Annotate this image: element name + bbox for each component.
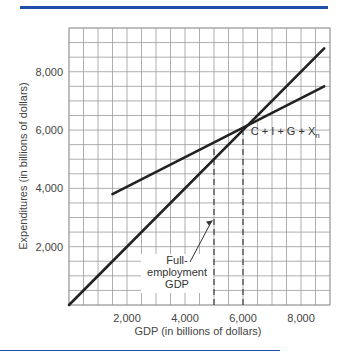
x-tick-label: 6,000 xyxy=(229,312,257,324)
x-tick-label: 4,000 xyxy=(171,312,199,324)
full-employment-label: Full- xyxy=(166,254,188,266)
arrow-head-icon xyxy=(206,220,213,225)
x-axis-title: GDP (in billions of dollars) xyxy=(135,325,262,337)
aggregate-expenditure-line xyxy=(113,86,325,194)
y-tick-label: 6,000 xyxy=(35,124,63,136)
y-tick-label: 4,000 xyxy=(35,182,63,194)
annotations: C + I + G + XnFull-employmentGDP xyxy=(141,125,320,293)
x-tick-label: 2,000 xyxy=(113,312,141,324)
x-axis-ticks: 2,0004,0006,0008,000 xyxy=(113,312,315,324)
full-employment-label: GDP xyxy=(165,278,189,290)
y-axis-title: Expenditures (in billions of dollars) xyxy=(17,82,29,250)
y-tick-label: 2,000 xyxy=(35,241,63,253)
x-tick-label: 8,000 xyxy=(287,312,315,324)
y-tick-label: 8,000 xyxy=(35,66,63,78)
y-axis-ticks: 2,0004,0006,0008,000 xyxy=(35,66,63,253)
full-employment-label: employment xyxy=(147,266,207,278)
aggregate-expenditure-chart: 2,0004,0006,0008,000 2,0004,0006,0008,00… xyxy=(0,0,347,357)
aggregate-expenditure-label: C + I + G + Xn xyxy=(251,125,320,140)
